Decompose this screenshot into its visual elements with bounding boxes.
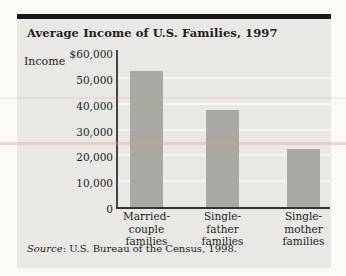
x-category-label-line: couple — [123, 223, 170, 236]
x-category-label-line: mother — [283, 223, 325, 236]
x-category-label-line: Married- — [123, 210, 170, 223]
chart-panel: Average Income of U.S. Families, 1997 In… — [17, 19, 331, 268]
x-category-label: Married-couplefamilies — [123, 210, 170, 248]
y-tick-label: 50,000 — [17, 74, 113, 86]
bar-singlefatherfamilies — [206, 110, 239, 207]
x-category-label-line: families — [123, 235, 170, 248]
y-tick-label: 20,000 — [17, 151, 113, 163]
y-tick-label: $60,000 — [17, 48, 113, 60]
x-category-label-line: father — [202, 223, 244, 236]
y-tick-label: 0 — [17, 203, 113, 215]
bar-singlemotherfamilies — [287, 149, 320, 207]
x-category-label: Single-motherfamilies — [283, 210, 325, 248]
source-label: Source — [27, 243, 63, 254]
x-category-label-line: Single- — [202, 210, 244, 223]
bar-marriedcouplefamilies — [130, 71, 163, 207]
x-category-label-line: families — [202, 235, 244, 248]
x-category-label-line: families — [283, 235, 325, 248]
panel-top-rule — [17, 14, 331, 19]
scanned-chart-page: Average Income of U.S. Families, 1997 In… — [0, 0, 346, 276]
x-category-label-line: Single- — [283, 210, 325, 223]
x-category-label: Single-fatherfamilies — [202, 210, 244, 248]
y-tick-label: 10,000 — [17, 177, 113, 189]
chart-title: Average Income of U.S. Families, 1997 — [27, 26, 327, 40]
y-tick-label: 40,000 — [17, 100, 113, 112]
y-axis-line — [116, 50, 118, 208]
y-tick-label: 30,000 — [17, 126, 113, 138]
x-axis-line — [116, 207, 330, 209]
